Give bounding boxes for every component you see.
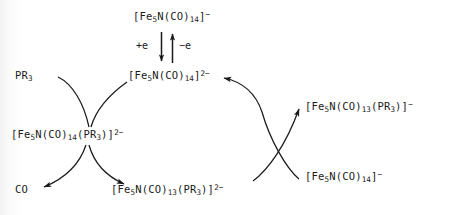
- arrow-adduct-to-co: [44, 145, 86, 187]
- arrow-pr3-to-adduct: [58, 77, 89, 127]
- species-reagent-14-monoanion: [Fe5N(CO)14]−: [305, 171, 382, 183]
- arrow-product13-to-mono13: [253, 109, 299, 181]
- species-carbon-monoxide: CO: [15, 184, 28, 195]
- reduction-label: +e: [136, 41, 148, 51]
- species-top-monoanion: [Fe5N(CO)14]−: [133, 11, 210, 23]
- species-product-13-dianion: [Fe5N(CO)13(PR3)]2−: [111, 184, 223, 196]
- species-product-13-monoanion: [Fe5N(CO)13(PR3)]−: [305, 101, 413, 113]
- species-dianion: [Fe5N(CO)14]2−: [128, 70, 210, 82]
- arrow-dianion-to-adduct: [91, 82, 127, 127]
- reaction-scheme: [Fe5N(CO)14]− +e −e [Fe5N(CO)14]2− PR3 […: [0, 0, 454, 215]
- species-adduct-14: [Fe5N(CO)14(PR3)]2−: [11, 129, 123, 141]
- oxidation-label: −e: [179, 41, 191, 51]
- arrow-adduct-to-product13: [89, 145, 124, 184]
- arrow-mono14-to-dianion: [224, 78, 299, 179]
- species-phosphine: PR3: [15, 70, 33, 82]
